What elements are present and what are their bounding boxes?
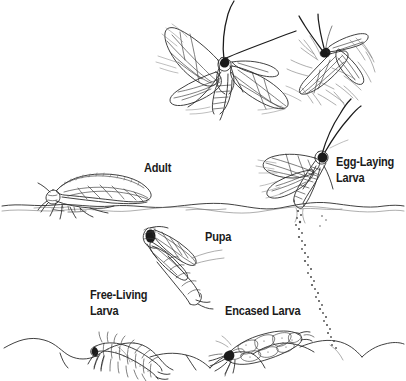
encased-larva [209, 331, 314, 376]
stream-bed [4, 338, 404, 370]
label-egg-laying-line2: Larva [336, 171, 364, 185]
caddisfly-lifecycle-diagram: .s { fill:none; stroke:#2b2b2b; stroke-w… [0, 0, 406, 381]
resting-adult-caddisfly [38, 173, 151, 219]
label-adult: Adult [144, 161, 171, 177]
label-pupa: Pupa [205, 230, 231, 246]
label-egg-laying-line1: Egg-Laying [336, 155, 394, 169]
label-free-living-line1: Free-Living [90, 288, 147, 302]
egg-trail [295, 208, 337, 349]
diving-adult-caddisfly [287, 14, 375, 106]
label-free-living-line2: Larva [90, 304, 118, 318]
label-free-living-larva: Free-LivingLarva [90, 288, 147, 319]
flying-adult-caddisfly [156, 1, 302, 120]
egg-laying-adult-caddisfly [256, 99, 361, 208]
label-encased-larva: Encased Larva [225, 304, 300, 320]
label-egg-laying-larva: Egg-LayingLarva [336, 155, 394, 186]
diagram-artboard: .s { fill:none; stroke:#2b2b2b; stroke-w… [0, 0, 406, 381]
